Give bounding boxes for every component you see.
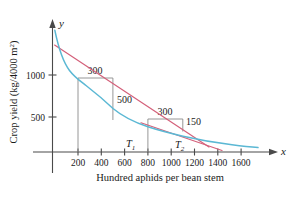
tangent-label-t2-sub: 2 (181, 145, 185, 153)
triangle2-rise-label: 150 (186, 116, 201, 127)
y-axis-caption-pre: Crop yield (kg/4000 m (8, 48, 20, 144)
x-axis-caption: Hundred aphids per bean stem (96, 172, 224, 183)
chart-svg: Crop yield (kg/4000 m2) y x 1000 500 200… (0, 0, 294, 202)
crop-yield-curve (55, 30, 258, 147)
triangle2-run-label: 300 (158, 106, 173, 117)
x-tick-label-400: 400 (94, 158, 109, 168)
x-tick-label-1400: 1400 (208, 158, 227, 168)
y-axis-arrowhead (49, 19, 55, 28)
x-tick-label-1000: 1000 (162, 158, 181, 168)
y-axis-caption-post: ) (8, 40, 20, 44)
x-axis-arrowhead (269, 149, 278, 155)
tangent-label-t2: T2 (175, 139, 185, 153)
triangle1-run-label: 300 (88, 65, 103, 76)
y-axis-name: y (58, 17, 64, 29)
x-tick-label-1600: 1600 (232, 158, 251, 168)
triangle1-rise-label: 500 (117, 94, 132, 105)
x-tick-label-1200: 1200 (185, 158, 204, 168)
chart-figure: Crop yield (kg/4000 m2) y x 1000 500 200… (0, 0, 294, 202)
x-tick-label-200: 200 (71, 158, 86, 168)
y-axis-caption: Crop yield (kg/4000 m2) (8, 40, 21, 143)
x-axis-name: x (280, 145, 286, 157)
y-tick-label-500: 500 (31, 113, 46, 123)
x-tick-label-800: 800 (141, 158, 156, 168)
y-tick-label-1000: 1000 (26, 71, 45, 81)
tangent-label-t1: T1 (126, 138, 135, 152)
tangent-label-t1-sub: 1 (132, 144, 136, 152)
x-tick-label-600: 600 (117, 158, 132, 168)
